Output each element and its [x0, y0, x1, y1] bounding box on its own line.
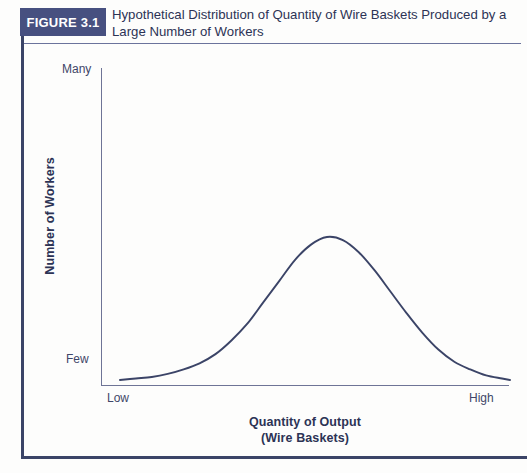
figure-container: FIGURE 3.1 Hypothetical Distribution of …	[0, 0, 527, 473]
x-axis-title-line1: Quantity of Output	[101, 414, 509, 430]
plot-area: Many Few Low High Number of Workers Quan…	[0, 0, 527, 473]
x-axis-title: Quantity of Output (Wire Baskets)	[101, 414, 509, 446]
y-axis-tick-many: Many	[62, 62, 91, 76]
x-axis-tick-high: High	[469, 391, 494, 405]
x-axis-title-line2: (Wire Baskets)	[101, 430, 509, 446]
y-axis-tick-few: Few	[66, 352, 89, 366]
x-axis-tick-low: Low	[107, 391, 129, 405]
y-axis-title: Number of Workers	[43, 157, 57, 274]
